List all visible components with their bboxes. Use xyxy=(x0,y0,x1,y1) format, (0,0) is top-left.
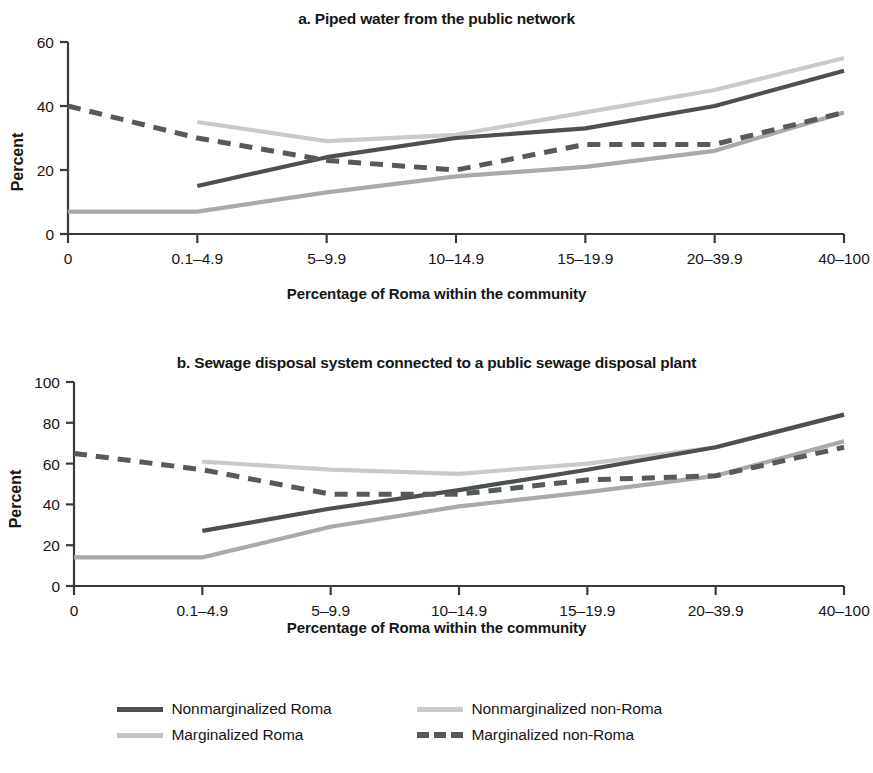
y-tick-label: 20 xyxy=(43,537,61,554)
panel-b: b. Sewage disposal system connected to a… xyxy=(0,340,873,670)
x-tick-label: 20–39.9 xyxy=(688,602,744,617)
x-tick-label: 40–100 xyxy=(818,602,870,617)
legend-swatch-solid-dark xyxy=(117,707,163,712)
panel-b-x-axis-label: Percentage of Roma within the community xyxy=(0,619,873,636)
legend: Nonmarginalized Roma Nonmarginalized non… xyxy=(0,700,873,744)
x-tick-label: 0.1–4.9 xyxy=(176,602,228,617)
series-line xyxy=(74,441,844,557)
x-tick-label: 40–100 xyxy=(818,250,870,267)
x-tick-label: 5–9.9 xyxy=(307,250,346,267)
x-tick-label: 0.1–4.9 xyxy=(171,250,223,267)
legend-item-nonmarginalized-non-roma: Nonmarginalized non-Roma xyxy=(417,700,757,718)
y-tick-label: 40 xyxy=(43,496,61,513)
panel-b-title: b. Sewage disposal system connected to a… xyxy=(0,340,873,372)
y-tick-label: 0 xyxy=(51,578,60,595)
panel-a-title: a. Piped water from the public network xyxy=(0,0,873,28)
panel-b-svg: 02040608010000.1–4.95–9.910–14.915–19.92… xyxy=(0,372,873,617)
legend-swatch-dashed-dark xyxy=(417,732,463,738)
legend-swatch-solid-lightest xyxy=(417,707,463,712)
series-line xyxy=(202,415,844,474)
legend-item-marginalized-roma: Marginalized Roma xyxy=(117,726,417,744)
x-tick-label: 0 xyxy=(70,602,79,617)
panel-a-y-axis-label: Percent xyxy=(9,122,27,202)
x-tick-label: 15–19.9 xyxy=(559,602,615,617)
legend-swatch-solid-light xyxy=(117,733,163,738)
y-tick-label: 20 xyxy=(37,162,55,179)
x-tick-label: 0 xyxy=(64,250,73,267)
x-tick-label: 5–9.9 xyxy=(311,602,350,617)
y-tick-label: 80 xyxy=(43,415,61,432)
y-tick-label: 60 xyxy=(37,34,55,51)
panel-a: a. Piped water from the public network P… xyxy=(0,0,873,340)
series-line xyxy=(68,112,844,211)
legend-item-marginalized-non-roma: Marginalized non-Roma xyxy=(417,726,757,744)
series-line xyxy=(197,71,844,186)
y-tick-label: 100 xyxy=(34,374,60,391)
legend-grid: Nonmarginalized Roma Nonmarginalized non… xyxy=(117,700,757,744)
panel-b-y-axis-label: Percent xyxy=(7,459,25,539)
x-tick-label: 15–19.9 xyxy=(557,250,613,267)
series-line xyxy=(197,58,844,141)
panel-b-plot: Percent 02040608010000.1–4.95–9.910–14.9… xyxy=(0,372,873,617)
x-tick-label: 10–14.9 xyxy=(428,250,484,267)
y-tick-label: 0 xyxy=(45,226,54,243)
panel-a-svg: 020406000.1–4.95–9.910–14.915–19.920–39.… xyxy=(0,28,873,283)
legend-label-marginalized-non-roma: Marginalized non-Roma xyxy=(472,726,634,744)
panel-a-x-axis-label: Percentage of Roma within the community xyxy=(0,285,873,302)
legend-label-nonmarginalized-non-roma: Nonmarginalized non-Roma xyxy=(472,700,663,718)
x-tick-label: 10–14.9 xyxy=(431,602,487,617)
y-tick-label: 60 xyxy=(43,456,61,473)
legend-label-marginalized-roma: Marginalized Roma xyxy=(172,726,304,744)
y-tick-label: 40 xyxy=(37,98,55,115)
panel-a-plot: Percent 020406000.1–4.95–9.910–14.915–19… xyxy=(0,28,873,283)
legend-label-nonmarginalized-roma: Nonmarginalized Roma xyxy=(172,700,332,718)
figure: a. Piped water from the public network P… xyxy=(0,0,873,773)
series-line xyxy=(202,415,844,531)
x-tick-label: 20–39.9 xyxy=(687,250,743,267)
legend-item-nonmarginalized-roma: Nonmarginalized Roma xyxy=(117,700,417,718)
